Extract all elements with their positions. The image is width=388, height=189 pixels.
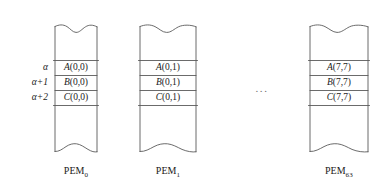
- column-caption-2-base: PEM: [325, 165, 346, 176]
- column-caption-1-base: PEM: [156, 165, 177, 176]
- column-caption-2-subscript: 63: [346, 171, 353, 179]
- row-index-label-alpha-plus-2: α+2: [10, 90, 48, 105]
- cell-0-0: A(0,0): [55, 60, 97, 75]
- row-index-label-alpha-plus-1: α+1: [10, 75, 48, 90]
- cell-0-2-args: (0,0): [70, 92, 88, 102]
- column-caption-1-subscript: 1: [176, 171, 180, 179]
- column-caption-0-subscript: 0: [84, 171, 88, 179]
- cell-2-1-args: (7,7): [333, 77, 351, 87]
- cell-1-1-args: (0,1): [162, 77, 180, 87]
- cell-2-0-args: (7,7): [333, 62, 351, 72]
- cell-2-0: A(7,7): [310, 60, 368, 75]
- cell-1-1: B(0,1): [140, 75, 196, 90]
- cell-2-1: B(7,7): [310, 75, 368, 90]
- cell-1-0: A(0,1): [140, 60, 196, 75]
- column-caption-2: PEM63: [309, 164, 369, 179]
- column-caption-1: PEM1: [138, 164, 198, 179]
- memory-layout-figure: α α+1 α+2 A(0,0) B(0,0) C(0,0) A(0,1) B(…: [0, 0, 388, 189]
- cell-1-0-args: (0,1): [162, 62, 180, 72]
- ellipsis-separator: ...: [242, 82, 282, 94]
- cell-0-1-args: (0,0): [70, 77, 88, 87]
- row-index-label-alpha: α: [10, 60, 48, 75]
- cell-0-2: C(0,0): [55, 90, 97, 105]
- cell-0-0-args: (0,0): [70, 62, 88, 72]
- cell-1-2: C(0,1): [140, 90, 196, 105]
- cell-0-1: B(0,0): [55, 75, 97, 90]
- cell-2-2-args: (7,7): [333, 92, 351, 102]
- cell-2-2: C(7,7): [310, 90, 368, 105]
- column-caption-0: PEM0: [46, 164, 106, 179]
- column-caption-0-base: PEM: [64, 165, 85, 176]
- cell-1-2-args: (0,1): [162, 92, 180, 102]
